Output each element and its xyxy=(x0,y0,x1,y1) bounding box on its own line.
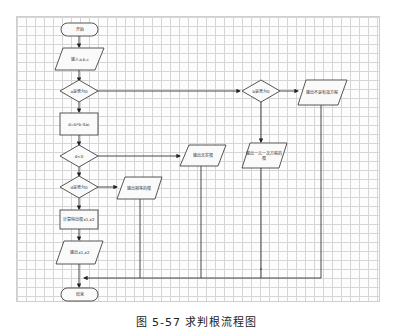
output-roots-label: 输出x1,x2 xyxy=(60,241,100,264)
linear-root-label: 输出一元一次方程的根 xyxy=(246,143,282,168)
decision-d-zero-label: d是否为0 xyxy=(62,181,96,193)
delta-label: d=b*b-4ac xyxy=(60,113,98,135)
equal-roots-label: 输出相等的根 xyxy=(121,177,157,199)
decision-b-label: b是否为0 xyxy=(244,85,278,97)
decision-d-label: d<0 xyxy=(62,150,96,162)
roots-label: 计算得出根x1,x2 xyxy=(60,210,98,229)
end-label: 结束 xyxy=(61,288,98,301)
decision-a-label: a是否为0 xyxy=(62,85,96,97)
no-real-label: 输出无实根 xyxy=(185,145,221,166)
input-label: 输入a,b,c xyxy=(60,48,100,70)
figure-caption: 图 5-57 求判根流程图 xyxy=(0,313,393,328)
not-equation-label: 输出不是有效方程 xyxy=(304,80,340,105)
start-label: 开始 xyxy=(61,23,98,36)
